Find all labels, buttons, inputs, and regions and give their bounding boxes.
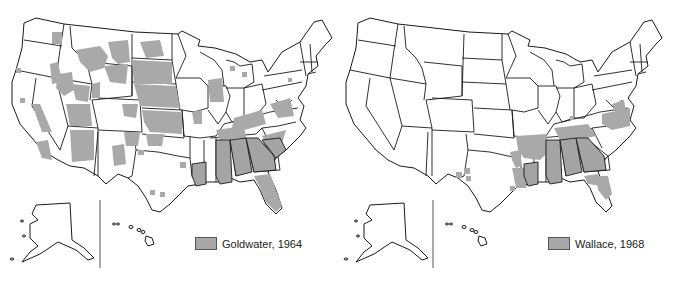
wallace-1968-map: Wallace, 1968: [340, 0, 679, 281]
hawaii-inset: [446, 223, 488, 246]
goldwater-1964-map: Goldwater, 1964: [0, 0, 340, 281]
alaska-inset: [10, 203, 94, 262]
legend-swatch: [195, 237, 217, 250]
wallace-legend: Wallace, 1968: [548, 237, 644, 250]
legend-swatch: [548, 237, 570, 250]
legend-label: Wallace, 1968: [575, 238, 644, 250]
goldwater-legend: Goldwater, 1964: [195, 237, 302, 250]
legend-label: Goldwater, 1964: [222, 238, 302, 250]
hawaii-inset: [113, 223, 155, 246]
alaska-inset: [344, 203, 428, 262]
